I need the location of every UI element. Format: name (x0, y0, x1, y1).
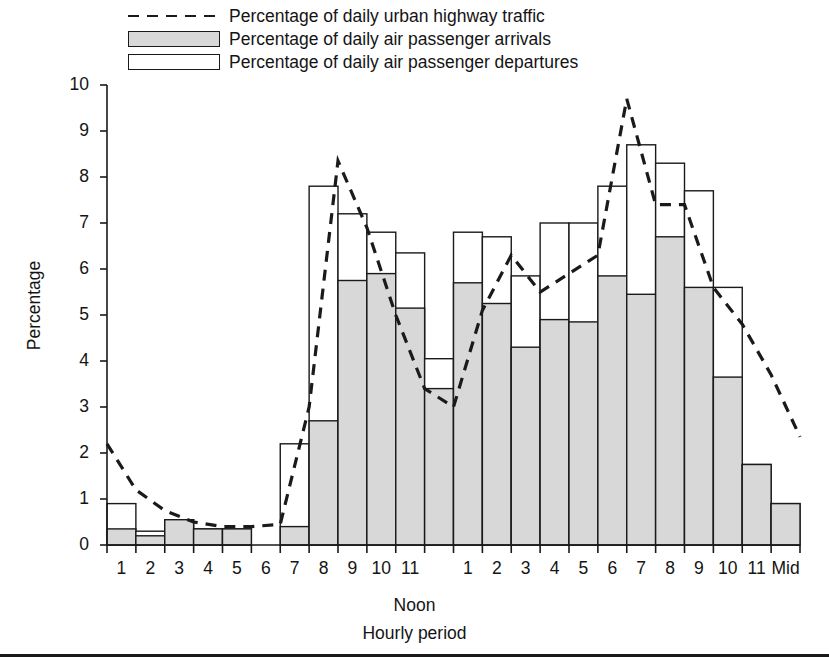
y-tick-label: 5 (61, 306, 89, 324)
bar-arrivals-segment (454, 283, 483, 545)
chart-figure: Percentage of daily urban highway traffi… (0, 0, 829, 661)
y-tick-label: 9 (61, 122, 89, 140)
bars-layer (107, 145, 800, 545)
bar-arrivals-segment (107, 529, 136, 545)
bar-arrivals-segment (511, 347, 540, 545)
bar-arrivals-segment (396, 308, 425, 545)
bar-arrivals-segment (598, 276, 627, 545)
bar-arrivals-segment (136, 536, 165, 545)
bar-arrivals-segment (685, 287, 714, 545)
y-tick-label: 10 (61, 76, 89, 94)
y-tick-label: 6 (61, 260, 89, 278)
bar-arrivals-segment (540, 320, 569, 545)
y-tick-label: 4 (61, 352, 89, 370)
bottom-rule-divider (0, 654, 829, 657)
y-tick-label: 7 (61, 214, 89, 232)
bar-arrivals-segment (482, 304, 511, 546)
bar-arrivals-segment (656, 237, 685, 545)
bar-arrivals-segment (309, 421, 338, 545)
bar-arrivals-segment (569, 322, 598, 545)
y-tick-label: 1 (61, 490, 89, 508)
y-tick-label: 3 (61, 398, 89, 416)
bar-arrivals-segment (338, 281, 367, 546)
x-axis-title: Hourly period (0, 623, 829, 644)
bar-arrivals-segment (223, 529, 252, 545)
bar-arrivals-segment (627, 294, 656, 545)
bar-arrivals-segment (165, 520, 194, 545)
x-tick-label: Mid (766, 560, 806, 578)
bar-arrivals-segment (771, 504, 800, 545)
y-tick-label: 2 (61, 444, 89, 462)
y-tick-label: 8 (61, 168, 89, 186)
bar-arrivals-segment (280, 527, 309, 545)
bar-arrivals-segment (425, 389, 454, 545)
bar-arrivals-segment (713, 377, 742, 545)
bar-arrivals-segment (367, 274, 396, 545)
x-tick-label: 11 (390, 560, 430, 578)
x-axis-noon-label: Noon (0, 595, 829, 616)
y-tick-label: 0 (61, 536, 89, 554)
bar-arrivals-segment (194, 529, 223, 545)
bar-arrivals-segment (742, 465, 771, 546)
